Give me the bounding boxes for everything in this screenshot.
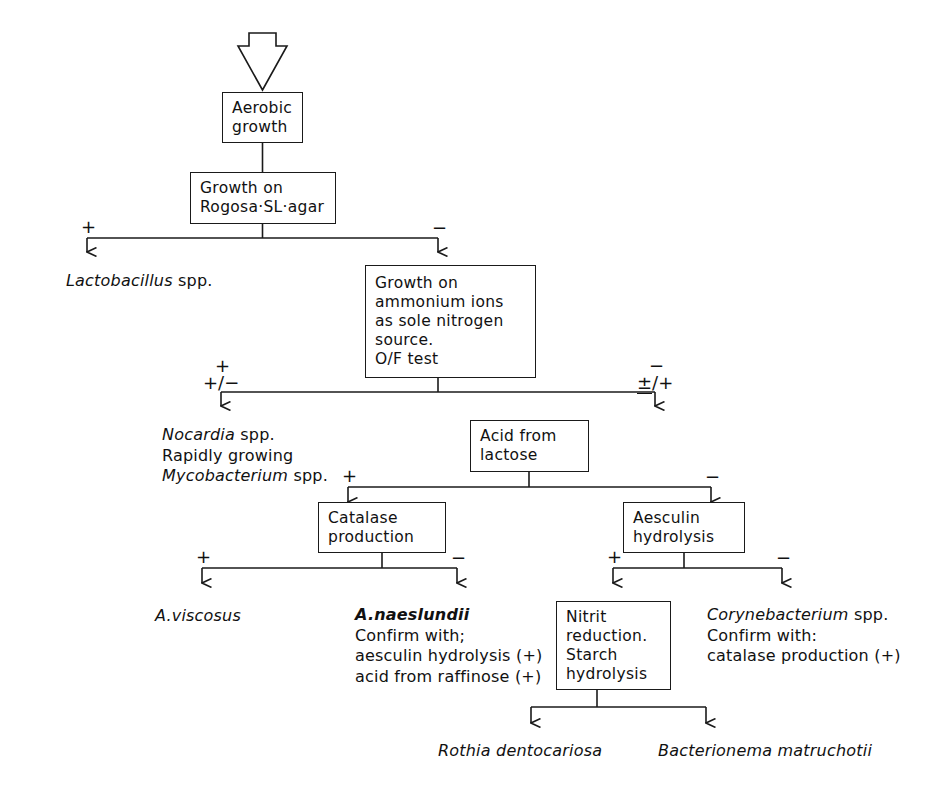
- box-line: Growth on: [191, 179, 335, 198]
- outcome-corynebacterium: Corynebacterium spp. Confirm with: catal…: [707, 605, 901, 667]
- flowchart-canvas: Aerobic growth Growth on Rogosa·SL·agar …: [0, 0, 940, 796]
- genus-suffix: spp.: [235, 425, 275, 444]
- outcome-rothia-dentocariosa: Rothia dentocariosa: [438, 741, 602, 762]
- sign-ammonium-left-bottom: +/−: [203, 374, 239, 392]
- genus-name: Nocardia: [162, 425, 235, 444]
- box-line: production: [319, 528, 445, 547]
- genus-suffix: spp.: [173, 271, 213, 290]
- box-line: Rogosa·SL·agar: [191, 198, 335, 217]
- sign-aesculin-positive: +: [607, 548, 622, 566]
- outcome-a-naeslundii: A.naeslundii Confirm with; aesculin hydr…: [355, 605, 542, 687]
- box-aesculin-hydrolysis: Aesculin hydrolysis: [623, 502, 745, 553]
- outcome-line: catalase production (+): [707, 646, 901, 667]
- species-name: A.naeslundii: [355, 605, 542, 626]
- box-line: source.: [366, 331, 535, 350]
- box-line: Catalase: [319, 509, 445, 528]
- box-line: Acid from: [471, 427, 588, 446]
- outcome-line: Confirm with:: [707, 626, 901, 647]
- genus-suffix: spp.: [288, 466, 328, 485]
- genus-name: Lactobacillus: [66, 271, 173, 290]
- outcome-line: Mycobacterium spp.: [162, 466, 328, 487]
- box-line: lactose: [471, 446, 588, 465]
- box-line: as sole nitrogen: [366, 312, 535, 331]
- genus-name: Corynebacterium: [707, 605, 849, 624]
- box-line: ammonium ions: [366, 293, 535, 312]
- sign-ammonium-right-bottom: ±/+: [637, 374, 673, 392]
- box-line: Aerobic: [223, 99, 302, 118]
- box-nitrit-reduction-starch: Nitrit reduction. Starch hydrolysis: [556, 601, 671, 690]
- box-rogosa-agar: Growth on Rogosa·SL·agar: [190, 172, 336, 224]
- box-line: growth: [223, 118, 302, 137]
- outcome-line: Confirm with;: [355, 626, 542, 647]
- box-line: Growth on: [366, 274, 535, 293]
- box-line: Starch: [557, 646, 670, 665]
- genus-suffix: spp.: [849, 605, 889, 624]
- sign-rogosa-positive: +: [81, 218, 96, 236]
- box-line: O/F test: [366, 350, 535, 369]
- box-line: hydrolysis: [624, 528, 744, 547]
- outcome-line: acid from raffinose (+): [355, 667, 542, 688]
- box-line: reduction.: [557, 627, 670, 646]
- sign-plus-minus: ±: [637, 372, 652, 394]
- sign-catalase-negative: −: [451, 549, 466, 567]
- outcome-bacterionema-matruchotii: Bacterionema matruchotii: [658, 741, 872, 762]
- sign-aesculin-negative: −: [776, 549, 791, 567]
- outcome-line: Nocardia spp.: [162, 425, 328, 446]
- outcome-line: aesculin hydrolysis (+): [355, 646, 542, 667]
- sign-lactose-negative: −: [705, 468, 720, 486]
- outcome-line: Rapidly growing: [162, 446, 328, 467]
- sign-lactose-positive: +: [342, 467, 357, 485]
- outcome-a-viscosus: A.viscosus: [155, 606, 241, 627]
- box-line: Nitrit: [557, 608, 670, 627]
- box-catalase-production: Catalase production: [318, 502, 446, 553]
- outcome-nocardia-mycobacterium: Nocardia spp. Rapidly growing Mycobacter…: [162, 425, 328, 487]
- outcome-lactobacillus: Lactobacillus spp.: [66, 271, 213, 292]
- sign-catalase-positive: +: [196, 548, 211, 566]
- box-ammonium-nitrogen-source: Growth on ammonium ions as sole nitrogen…: [365, 265, 536, 378]
- box-aerobic-growth: Aerobic growth: [222, 92, 303, 143]
- outcome-line: Corynebacterium spp.: [707, 605, 901, 626]
- sign-rogosa-negative: −: [432, 219, 447, 237]
- sign-slash-plus: /+: [652, 372, 673, 393]
- box-line: hydrolysis: [557, 665, 670, 684]
- genus-name: Mycobacterium: [162, 466, 288, 485]
- box-line: Aesculin: [624, 509, 744, 528]
- box-acid-from-lactose: Acid from lactose: [470, 420, 589, 472]
